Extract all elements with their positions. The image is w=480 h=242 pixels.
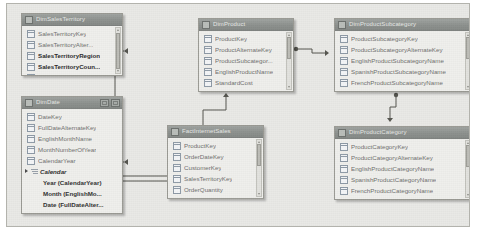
field-row[interactable]: ProductAlternateKey xyxy=(199,44,293,55)
relationship-rel-product-to-subcategory[interactable] xyxy=(294,47,329,56)
vertical-scrollbar[interactable] xyxy=(286,32,292,90)
field-row[interactable]: OrderDateKey xyxy=(168,151,263,162)
table-icon xyxy=(338,129,346,137)
field-row[interactable]: EnglishProductCategoryName xyxy=(335,163,470,174)
table-header-fact-internet-sales[interactable]: FactInternetSales xyxy=(168,126,263,138)
table-header-dim-product-category[interactable]: DimProductCategory xyxy=(335,127,470,139)
expand-arrow-icon[interactable] xyxy=(24,169,29,174)
scroll-down-arrow-icon[interactable] xyxy=(287,85,291,89)
table-card-dim-product[interactable]: DimProductProductKeyProductAlternateKeyP… xyxy=(198,18,294,92)
relationship-arrow-icon xyxy=(325,50,329,56)
hierarchy-level[interactable]: Year (CalendarYear) xyxy=(22,177,122,188)
field-row[interactable]: ProductKey xyxy=(168,140,263,151)
field-row[interactable]: SalesTerritoryGroup xyxy=(22,72,122,75)
table-field-list-dim-product-subcategory[interactable]: ProductSubcategoryKeyProductSubcategoryA… xyxy=(335,31,470,91)
vertical-scrollbar[interactable] xyxy=(256,139,262,197)
scroll-up-arrow-icon[interactable] xyxy=(116,28,120,32)
table-card-dim-product-category[interactable]: DimProductCategoryProductCategoryKeyProd… xyxy=(334,126,470,200)
relationship-line xyxy=(390,95,396,118)
field-label: ProductSubcategor... xyxy=(215,57,273,64)
field-row[interactable]: SalesTerritoryKey xyxy=(168,173,263,184)
field-label: FrenchProductSubcategoryName xyxy=(351,79,443,86)
field-row[interactable]: EnglishProductName xyxy=(199,66,293,77)
field-row[interactable]: EnglishProductSubcategoryName xyxy=(335,55,470,66)
field-row[interactable]: SpanishProductCategoryName xyxy=(335,174,470,185)
column-icon xyxy=(27,41,35,49)
table-field-list-dim-sales-territory[interactable]: SalesTerritoryKeySalesTerritoryAlter...S… xyxy=(22,26,122,75)
scrollbar-thumb[interactable] xyxy=(287,37,291,59)
table-title: DimSalesTerritory xyxy=(36,16,120,23)
field-row[interactable]: FullDateAlternateKey xyxy=(22,122,122,133)
field-row[interactable]: ProductSubcategoryAlternateKey xyxy=(335,44,470,55)
relationship-rel-subcategory-to-category[interactable] xyxy=(387,93,398,122)
scrollbar-thumb[interactable] xyxy=(466,37,470,59)
field-row[interactable]: SalesTerritoryCoun... xyxy=(22,61,122,72)
field-row[interactable]: SalesTerritoryRegion xyxy=(22,50,122,61)
column-icon xyxy=(27,74,35,76)
field-row[interactable]: ProductCategoryAlternateKey xyxy=(335,152,470,163)
relationship-arrow-icon xyxy=(124,48,128,54)
restore-button[interactable] xyxy=(100,99,109,107)
hierarchy-icon xyxy=(31,169,38,175)
table-icon xyxy=(25,99,33,107)
scroll-down-arrow-icon[interactable] xyxy=(257,192,261,196)
table-card-dim-sales-territory[interactable]: DimSalesTerritorySalesTerritoryKeySalesT… xyxy=(21,13,123,76)
table-icon xyxy=(202,21,210,29)
scrollbar-thumb[interactable] xyxy=(257,144,261,166)
table-field-list-dim-date[interactable]: DateKeyFullDateAlternateKeyEnglishMonthN… xyxy=(22,109,122,213)
table-field-list-dim-product[interactable]: ProductKeyProductAlternateKeyProductSubc… xyxy=(199,31,293,91)
scrollbar-thumb[interactable] xyxy=(466,145,470,167)
vertical-scrollbar[interactable] xyxy=(465,140,470,198)
table-field-list-fact-internet-sales[interactable]: ProductKeyOrderDateKeyCustomerKeySalesTe… xyxy=(168,138,263,198)
field-row[interactable]: SpanishProductSubcategoryName xyxy=(335,66,470,77)
field-row[interactable]: MonthNumberOfYear xyxy=(22,144,122,155)
field-label: SalesTerritoryRegion xyxy=(38,52,100,59)
field-row[interactable]: SalesTerritoryAlter... xyxy=(22,39,122,50)
column-icon xyxy=(340,143,348,151)
column-icon xyxy=(27,157,35,165)
scroll-down-arrow-icon[interactable] xyxy=(116,69,120,73)
relationship-arrow-icon xyxy=(223,93,229,97)
vertical-scrollbar[interactable] xyxy=(115,27,121,74)
field-row[interactable]: FrenchProductSubcategoryName xyxy=(335,77,470,88)
table-header-dim-sales-territory[interactable]: DimSalesTerritory xyxy=(22,14,122,26)
field-row[interactable]: FrenchProductCategoryName xyxy=(335,185,470,196)
hierarchy-level[interactable]: Month (EnglishMo... xyxy=(22,188,122,199)
model-diagram-canvas[interactable]: DimSalesTerritorySalesTerritoryKeySalesT… xyxy=(6,3,470,227)
field-row[interactable]: ProductCategoryKey xyxy=(335,141,470,152)
table-card-dim-product-subcategory[interactable]: DimProductSubcategoryProductSubcategoryK… xyxy=(334,18,470,92)
table-icon xyxy=(25,16,33,24)
field-row[interactable]: ProductSubcategor... xyxy=(199,55,293,66)
field-row[interactable]: ProductKey xyxy=(199,33,293,44)
field-row[interactable]: ProductSubcategoryKey xyxy=(335,33,470,44)
table-header-dim-product-subcategory[interactable]: DimProductSubcategory xyxy=(335,19,470,31)
column-icon xyxy=(340,68,348,76)
column-icon xyxy=(340,79,348,87)
field-label: EnglishProductName xyxy=(215,68,273,75)
scroll-down-arrow-icon[interactable] xyxy=(466,193,470,197)
hierarchy-label: Calendar xyxy=(40,168,66,175)
field-label: SpanishProductCategoryName xyxy=(351,176,436,183)
hierarchy-level[interactable]: Date (FullDateAlter... xyxy=(22,199,122,210)
field-row[interactable]: DateKey xyxy=(22,111,122,122)
table-card-fact-internet-sales[interactable]: FactInternetSalesProductKeyOrderDateKeyC… xyxy=(167,125,264,199)
maximize-button[interactable] xyxy=(111,99,120,107)
column-icon xyxy=(340,57,348,65)
hierarchy-row[interactable]: Calendar xyxy=(22,166,122,177)
field-row[interactable]: CalendarYear xyxy=(22,155,122,166)
scroll-down-arrow-icon[interactable] xyxy=(466,85,470,89)
field-row[interactable]: EnglishMonthName xyxy=(22,133,122,144)
vertical-scrollbar[interactable] xyxy=(465,32,470,90)
field-label: SpanishProductSubcategoryName xyxy=(351,68,446,75)
table-field-list-dim-product-category[interactable]: ProductCategoryKeyProductCategoryAlterna… xyxy=(335,139,470,199)
table-header-dim-date[interactable]: DimDate xyxy=(22,97,122,109)
field-row[interactable]: StandardCost xyxy=(199,77,293,88)
relationship-arrow-icon xyxy=(124,159,128,165)
field-row[interactable]: CustomerKey xyxy=(168,162,263,173)
scrollbar-thumb[interactable] xyxy=(116,33,120,69)
table-card-dim-date[interactable]: DimDateDateKeyFullDateAlternateKeyEnglis… xyxy=(21,96,123,214)
table-header-dim-product[interactable]: DimProduct xyxy=(199,19,293,31)
field-row[interactable]: OrderQuantity xyxy=(168,184,263,195)
field-row[interactable]: SalesTerritoryKey xyxy=(22,28,122,39)
column-icon xyxy=(27,124,35,132)
